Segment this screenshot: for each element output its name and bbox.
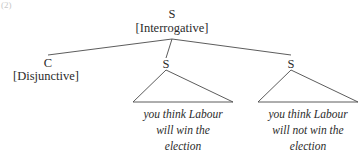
leaf-line: election [268,138,347,154]
node-s1-category: S [162,58,169,71]
node-root-category: S [168,8,175,21]
leaf-text-s1: you think Labour will win the election [143,106,222,154]
leaf-line: will not win the [268,122,347,138]
leaf-line: you think Labour [268,106,347,122]
branch-root-to-c [48,39,172,55]
node-c-feature: [Disjunctive] [13,70,79,83]
triangle-s1 [133,70,233,102]
branch-root-to-s1 [166,39,172,58]
branch-root-to-s2 [172,39,291,55]
triangle-s2 [258,70,358,102]
leaf-line: you think Labour [143,106,222,122]
node-s2-category: S [287,58,294,71]
leaf-line: will win the [143,122,222,138]
leaf-text-s2: you think Labour will not win the electi… [268,106,347,154]
leaf-line: election [143,138,222,154]
syntax-tree-figure: (2) S [Interrogative] C [Disjunctive] S … [0,0,360,158]
node-root-feature: [Interrogative] [136,22,209,35]
node-c-category: C [44,57,53,70]
